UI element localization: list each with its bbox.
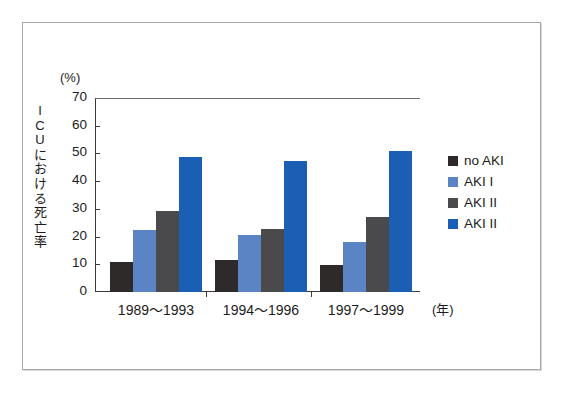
x-axis-tick-mark xyxy=(311,292,312,297)
bar xyxy=(343,242,366,292)
y-axis-tick-label: 30 xyxy=(55,200,87,215)
x-axis-group-label: 1997〜1999 xyxy=(316,299,416,319)
legend-item: no AKI xyxy=(448,150,504,171)
y-axis-title-char: 率 xyxy=(30,235,50,250)
legend-label: AKI II xyxy=(464,216,497,231)
y-axis-tick-mark xyxy=(95,209,100,210)
bar xyxy=(320,265,343,292)
bar xyxy=(238,235,261,292)
y-axis-title-char: お xyxy=(30,162,50,177)
y-axis-tick-label: 60 xyxy=(55,117,87,132)
y-axis-title-char: け xyxy=(30,177,50,192)
y-axis-tick-mark xyxy=(95,264,100,265)
y-axis-tick-label: 40 xyxy=(55,172,87,187)
y-axis-tick-label: 70 xyxy=(55,89,87,104)
bar xyxy=(110,262,133,292)
bar xyxy=(261,229,284,292)
legend-label: AKI I xyxy=(464,174,493,189)
y-axis-title: ICUにおける死亡率 xyxy=(30,104,50,250)
legend-label: no AKI xyxy=(464,153,504,168)
legend-color-swatch xyxy=(448,198,458,208)
legend-color-swatch xyxy=(448,219,458,229)
y-axis-tick-mark xyxy=(95,181,100,182)
y-axis-title-char: U xyxy=(30,133,50,148)
bar xyxy=(179,157,202,292)
y-axis-tick-label: 20 xyxy=(55,228,87,243)
x-axis-group-label: 1989〜1993 xyxy=(106,299,206,319)
legend-color-swatch xyxy=(448,177,458,187)
chart-legend: no AKIAKI IAKI IIAKI II xyxy=(448,150,504,234)
y-axis-tick-mark xyxy=(95,126,100,127)
grouped-bar-chart: (%) ICUにおける死亡率 706050403020100 1989〜1993… xyxy=(0,0,563,393)
legend-item: AKI II xyxy=(448,213,504,234)
bar xyxy=(156,211,179,292)
legend-item: AKI I xyxy=(448,171,504,192)
bar xyxy=(389,151,412,292)
x-axis-tick-mark xyxy=(206,292,207,297)
legend-color-swatch xyxy=(448,156,458,166)
y-axis-tick-mark xyxy=(95,153,100,154)
legend-label: AKI II xyxy=(464,195,497,210)
y-axis-tick-mark xyxy=(95,237,100,238)
bar xyxy=(133,230,156,292)
y-axis-title-char: る xyxy=(30,192,50,207)
y-axis-title-char: 亡 xyxy=(30,221,50,236)
y-axis-title-char: I xyxy=(30,104,50,119)
bar xyxy=(215,260,238,292)
y-axis-unit-label: (%) xyxy=(60,70,80,85)
y-axis-title-char: C xyxy=(30,119,50,134)
bar xyxy=(284,161,307,292)
y-axis-title-char: に xyxy=(30,148,50,163)
legend-item: AKI II xyxy=(448,192,504,213)
y-axis-title-char: 死 xyxy=(30,206,50,221)
x-axis-unit-label: (年) xyxy=(432,299,454,318)
bar xyxy=(366,217,389,292)
y-axis-tick-label: 10 xyxy=(55,255,87,270)
y-axis-tick-label: 0 xyxy=(55,283,87,298)
x-axis-group-label: 1994〜1996 xyxy=(211,299,311,319)
y-axis-tick-label: 50 xyxy=(55,144,87,159)
